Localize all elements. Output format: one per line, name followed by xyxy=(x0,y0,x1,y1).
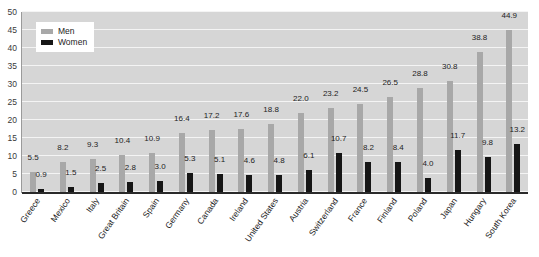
legend-item-men: Men xyxy=(41,26,87,36)
bar-group: 44.913.2 xyxy=(506,12,536,192)
bar-value-label-men: 16.4 xyxy=(174,114,190,123)
bar-value-label-men: 18.8 xyxy=(263,105,279,114)
x-axis-category-label: Finland xyxy=(375,196,399,225)
bar-women xyxy=(336,153,342,192)
y-axis-tick-label: 15 xyxy=(8,133,17,143)
bar-value-label-men: 44.9 xyxy=(501,11,517,20)
bar-women xyxy=(38,189,44,192)
bar-women xyxy=(365,162,371,192)
bar-women xyxy=(187,173,193,192)
bar-value-label-men: 23.2 xyxy=(323,89,339,98)
x-axis-category-label: Italy xyxy=(84,196,101,215)
x-axis-category-label: Switzerland xyxy=(306,196,339,238)
bar-value-label-women: 3.0 xyxy=(155,162,166,171)
y-axis-tick-label: 50 xyxy=(8,7,17,17)
bar-value-label-men: 17.6 xyxy=(234,110,250,119)
y-axis-tick-label: 10 xyxy=(8,151,17,161)
bar-women xyxy=(157,181,163,192)
x-axis-category-label: Poland xyxy=(406,196,429,223)
bar-chart: 05101520253035404550 5.50.98.21.59.32.51… xyxy=(0,0,539,257)
x-axis-category-label: Ireland xyxy=(227,196,250,223)
bar-value-label-men: 38.8 xyxy=(472,33,488,42)
y-axis-tick-label: 5 xyxy=(12,169,17,179)
legend-swatch-men-icon xyxy=(41,29,53,34)
y-axis-tick-label: 40 xyxy=(8,43,17,53)
bar-women xyxy=(514,144,520,192)
bar-women xyxy=(246,175,252,192)
bar-value-label-women: 5.1 xyxy=(214,155,225,164)
bar-value-label-men: 22.0 xyxy=(293,94,309,103)
bar-women xyxy=(127,182,133,192)
bar-group: 23.210.7 xyxy=(328,12,358,192)
bar-value-label-women: 6.1 xyxy=(303,151,314,160)
bar-men xyxy=(328,108,334,192)
x-axis-category-label: France xyxy=(346,196,369,223)
legend-swatch-women-icon xyxy=(41,40,53,45)
y-axis-tick-label: 45 xyxy=(8,25,17,35)
bar-value-label-men: 8.2 xyxy=(57,143,68,152)
x-axis-category-label: Greece xyxy=(18,196,42,225)
x-axis-category-label: Great Britain xyxy=(96,196,132,241)
x-axis-category-label: Austria xyxy=(287,196,310,223)
bar-women xyxy=(455,150,461,192)
bar-women xyxy=(425,178,431,192)
bar-group: 17.25.1 xyxy=(209,12,239,192)
bar-value-label-men: 10.9 xyxy=(144,134,160,143)
bar-women xyxy=(217,174,223,192)
bar-men xyxy=(119,155,125,192)
x-axis-category-label: Hungary xyxy=(462,196,489,228)
x-axis-category-labels: GreeceMexicoItalyGreat BritainSpainGerma… xyxy=(22,196,528,257)
y-axis-tick-label: 0 xyxy=(12,187,17,197)
bar-group: 22.06.1 xyxy=(298,12,328,192)
bar-value-label-men: 24.5 xyxy=(353,85,369,94)
y-axis-tick-label: 35 xyxy=(8,61,17,71)
bar-value-label-men: 10.4 xyxy=(115,136,131,145)
bar-value-label-women: 4.6 xyxy=(244,156,255,165)
x-axis-category-label: Canada xyxy=(195,196,220,226)
legend-item-women: Women xyxy=(41,37,87,47)
bar-value-label-men: 28.8 xyxy=(412,69,428,78)
bar-women xyxy=(395,162,401,192)
bar-value-label-women: 4.8 xyxy=(274,156,285,165)
x-axis-category-label: South Korea xyxy=(483,196,518,240)
bar-women xyxy=(306,170,312,192)
bar-women xyxy=(485,157,491,192)
bar-men xyxy=(506,30,512,192)
bar-women xyxy=(68,187,74,192)
x-axis-category-label: Germany xyxy=(163,196,191,230)
bar-value-label-men: 9.3 xyxy=(87,140,98,149)
y-axis-tick-label: 30 xyxy=(8,79,17,89)
bar-value-label-women: 11.7 xyxy=(450,131,465,140)
x-axis-category-label: Japan xyxy=(437,196,458,221)
bar-men xyxy=(417,88,423,192)
legend-label-men: Men xyxy=(58,27,75,36)
bar-group: 38.89.8 xyxy=(477,12,507,192)
bar-value-label-men: 26.5 xyxy=(382,78,398,87)
bar-group: 10.93.0 xyxy=(149,12,179,192)
legend-label-women: Women xyxy=(58,38,87,47)
bar-value-label-men: 5.5 xyxy=(27,153,38,162)
bar-value-label-women: 2.8 xyxy=(125,163,136,172)
bar-value-label-women: 5.3 xyxy=(184,154,195,163)
bar-group: 17.64.6 xyxy=(238,12,268,192)
x-axis-line xyxy=(22,192,528,194)
bar-value-label-women: 9.8 xyxy=(482,138,493,147)
bar-group: 10.42.8 xyxy=(119,12,149,192)
bar-women xyxy=(276,175,282,192)
bar-men xyxy=(149,153,155,192)
bar-group: 26.58.4 xyxy=(387,12,417,192)
bar-value-label-women: 2.5 xyxy=(95,164,106,173)
bar-value-label-women: 4.0 xyxy=(422,159,433,168)
bar-value-label-women: 0.9 xyxy=(35,170,46,179)
bar-value-label-women: 10.7 xyxy=(331,134,347,143)
bar-value-label-women: 1.5 xyxy=(65,168,76,177)
legend: Men Women xyxy=(36,22,94,52)
chart-title xyxy=(150,0,390,3)
bar-value-label-women: 13.2 xyxy=(509,125,525,134)
bar-men xyxy=(477,52,483,192)
bar-group: 28.84.0 xyxy=(417,12,447,192)
bar-value-label-men: 17.2 xyxy=(204,111,220,120)
bar-women xyxy=(98,183,104,192)
y-axis-tick-label: 20 xyxy=(8,115,17,125)
bar-group: 24.58.2 xyxy=(357,12,387,192)
